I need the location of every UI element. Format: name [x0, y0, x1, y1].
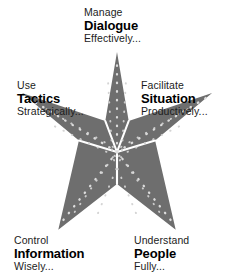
- label-dialogue-verb: Manage: [84, 6, 141, 18]
- label-dialogue-noun: Dialogue: [84, 18, 141, 33]
- label-information-noun: Information: [14, 246, 84, 261]
- label-people-noun: People: [134, 246, 189, 261]
- label-tactics-adverb: Strategically...: [17, 105, 84, 117]
- label-tactics: Use Tactics Strategically...: [17, 79, 84, 118]
- label-situation-verb: Facilitate: [141, 79, 208, 91]
- label-information: Control Information Wisely...: [14, 234, 84, 273]
- label-tactics-verb: Use: [17, 79, 84, 91]
- label-situation-adverb: Productively...: [141, 105, 208, 117]
- label-people-adverb: Fully...: [134, 260, 189, 272]
- label-dialogue: Manage Dialogue Effectively...: [84, 6, 141, 45]
- label-situation-noun: Situation: [141, 91, 208, 106]
- label-situation: Facilitate Situation Productively...: [141, 79, 208, 118]
- label-information-verb: Control: [14, 234, 84, 246]
- label-tactics-noun: Tactics: [17, 91, 84, 106]
- label-dialogue-adverb: Effectively...: [84, 32, 141, 44]
- label-information-adverb: Wisely...: [14, 260, 84, 272]
- label-people-verb: Understand: [134, 234, 189, 246]
- star-diagram: Manage Dialogue Effectively... Use Tacti…: [0, 0, 233, 277]
- label-people: Understand People Fully...: [134, 234, 189, 273]
